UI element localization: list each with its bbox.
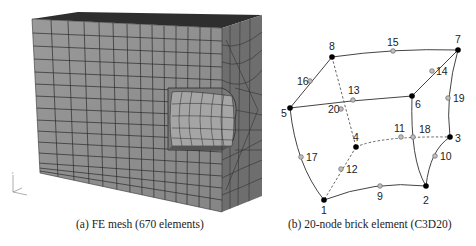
node-13 bbox=[351, 98, 356, 103]
node-8 bbox=[329, 54, 335, 60]
node-2 bbox=[423, 183, 429, 189]
svg-text:12: 12 bbox=[346, 163, 358, 175]
element-hidden-edges bbox=[324, 57, 450, 200]
node-7 bbox=[455, 47, 461, 53]
svg-text:1: 1 bbox=[321, 204, 327, 216]
node-5 bbox=[287, 105, 293, 111]
node-11 bbox=[399, 135, 404, 140]
svg-text:2: 2 bbox=[423, 194, 429, 206]
panel-brick-element: 1 2 3 4 5 6 7 8 9 10 11 12 13 14 15 16 1… bbox=[270, 0, 476, 246]
svg-text:z: z bbox=[12, 171, 14, 175]
node-14 bbox=[430, 69, 435, 74]
svg-text:18: 18 bbox=[419, 123, 431, 135]
svg-text:8: 8 bbox=[329, 40, 335, 52]
node-1 bbox=[321, 197, 327, 203]
svg-text:15: 15 bbox=[387, 36, 399, 48]
svg-text:19: 19 bbox=[453, 92, 465, 104]
node-12 bbox=[339, 167, 344, 172]
svg-text:9: 9 bbox=[377, 190, 383, 202]
caption-fe-mesh: (a) FE mesh (670 elements) bbox=[76, 218, 204, 230]
axis-triad-icon: z bbox=[12, 171, 27, 195]
node-18 bbox=[411, 135, 416, 140]
node-6 bbox=[409, 93, 415, 99]
fe-mesh-figure: z bbox=[0, 0, 270, 246]
svg-text:6: 6 bbox=[415, 98, 421, 110]
svg-text:10: 10 bbox=[440, 150, 452, 162]
svg-text:20: 20 bbox=[328, 103, 340, 115]
panel-fe-mesh: z (a) FE mesh (670 elements) bbox=[0, 0, 270, 246]
svg-text:7: 7 bbox=[455, 33, 461, 45]
svg-text:4: 4 bbox=[353, 131, 359, 143]
corner-nodes bbox=[287, 47, 461, 203]
brick-element-figure: 1 2 3 4 5 6 7 8 9 10 11 12 13 14 15 16 1… bbox=[270, 0, 476, 246]
node-19 bbox=[446, 96, 451, 101]
node-4 bbox=[353, 144, 359, 150]
mesh-notch bbox=[168, 88, 236, 150]
svg-text:14: 14 bbox=[436, 65, 448, 77]
svg-text:17: 17 bbox=[306, 151, 318, 163]
caption-brick-element: (b) 20-node brick element (C3D20) bbox=[288, 218, 452, 230]
svg-text:16: 16 bbox=[297, 75, 309, 87]
svg-text:13: 13 bbox=[348, 84, 360, 96]
svg-text:3: 3 bbox=[455, 132, 461, 144]
svg-text:5: 5 bbox=[281, 107, 287, 119]
node-17 bbox=[299, 155, 304, 160]
node-3 bbox=[447, 134, 453, 140]
node-9 bbox=[378, 184, 383, 189]
svg-text:11: 11 bbox=[394, 122, 405, 134]
node-labels: 1 2 3 4 5 6 7 8 9 10 11 12 13 14 15 16 1… bbox=[281, 33, 465, 216]
node-15 bbox=[391, 49, 396, 54]
node-10 bbox=[433, 154, 438, 159]
